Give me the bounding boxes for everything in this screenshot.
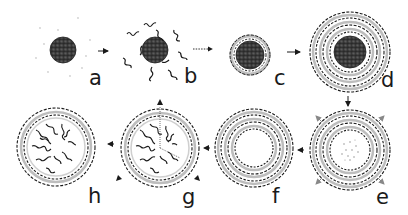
step-label-g: g: [182, 187, 195, 208]
step-label-b: b: [184, 66, 197, 87]
step-b: [123, 23, 187, 81]
step-label-d: d: [381, 70, 394, 91]
step-label-a: a: [89, 68, 102, 89]
step-a: [35, 17, 91, 77]
step-label-e: e: [376, 187, 389, 208]
core-particle-a: [50, 37, 76, 63]
step-label-h: h: [88, 186, 101, 207]
step-h: [17, 108, 95, 186]
core-particle-c: [236, 41, 264, 69]
step-c: [230, 35, 270, 75]
encapsulated-chains-h: [32, 124, 76, 173]
hollow-shell-f: [215, 109, 293, 187]
step-label-c: c: [274, 68, 286, 89]
dissolving-core-e: [341, 139, 359, 160]
step-f: [215, 109, 293, 187]
core-particle-d: [334, 36, 366, 68]
step-d: [310, 12, 390, 92]
shell-h: [17, 108, 95, 186]
diagram-canvas: a b c d e f g h: [0, 0, 408, 215]
step-e: [310, 110, 390, 190]
step-g: [116, 99, 200, 187]
step-label-f: f: [272, 186, 279, 207]
encapsulated-chains-g: [136, 124, 178, 173]
core-particle-b: [142, 37, 168, 63]
diagram-svg: [0, 0, 408, 215]
